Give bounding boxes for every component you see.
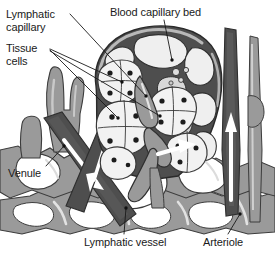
cell-nucleus bbox=[109, 114, 114, 119]
cell-nucleus bbox=[107, 70, 112, 75]
cell-nucleus bbox=[194, 146, 199, 151]
lymphatic-capillary-figure: Lymphatic capillary Tissue cells Blood c… bbox=[0, 0, 275, 260]
label-blood-capillary-bed: Blood capillary bed bbox=[110, 6, 201, 19]
cell-nucleus bbox=[127, 90, 132, 95]
cell-nucleus bbox=[107, 138, 112, 143]
label-venule: Venule bbox=[8, 167, 41, 180]
label-lymphatic-capillary: Lymphatic capillary bbox=[6, 8, 55, 33]
cell-nucleus bbox=[127, 70, 132, 75]
cell-nucleus bbox=[178, 160, 183, 165]
cell-nucleus bbox=[112, 158, 117, 163]
cell-nucleus bbox=[159, 98, 164, 103]
cell-nucleus bbox=[180, 119, 185, 124]
cell-nucleus bbox=[133, 137, 138, 142]
diagram-artwork bbox=[0, 0, 275, 260]
label-lymphatic-vessel: Lymphatic vessel bbox=[84, 236, 166, 249]
cell-nucleus bbox=[181, 97, 186, 102]
cell-nucleus bbox=[126, 163, 131, 168]
label-arteriole: Arteriole bbox=[203, 236, 243, 249]
label-tissue-cells: Tissue cells bbox=[6, 42, 37, 67]
tissue-cell-cluster-lower-left bbox=[100, 147, 136, 179]
right-side-branch bbox=[248, 96, 264, 128]
cell-nucleus bbox=[107, 90, 112, 95]
cell-nucleus bbox=[158, 119, 163, 124]
